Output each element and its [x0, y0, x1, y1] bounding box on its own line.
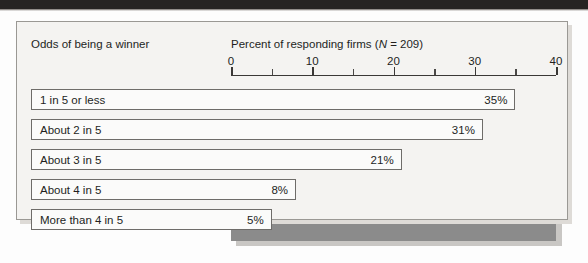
scanned-page: Odds of being a winner Percent of respon… [0, 0, 588, 263]
bar-value-label: 5% [247, 214, 264, 226]
chart-figure: Odds of being a winner Percent of respon… [0, 11, 588, 263]
bar-value-label: 35% [484, 94, 507, 106]
x-tick-minor [515, 69, 517, 75]
x-tick-major [231, 67, 233, 75]
bar-value-label: 21% [371, 154, 394, 166]
bar-series: 1 in 5 or less35%About 2 in 531%About 3 … [0, 11, 588, 263]
x-tick-major [556, 67, 558, 75]
x-tick-minor [272, 69, 274, 75]
x-tick-major [394, 67, 396, 75]
bar-row: 1 in 5 or less35% [31, 89, 515, 110]
bar-value-label: 31% [452, 124, 475, 136]
x-tick-minor [434, 69, 436, 75]
bar-category-label: About 4 in 5 [40, 184, 101, 196]
bar-row: About 3 in 521% [31, 149, 402, 170]
bar-value-label: 8% [271, 184, 288, 196]
bar-row: About 4 in 58% [31, 179, 296, 200]
bar-category-label: 1 in 5 or less [40, 94, 105, 106]
bar-category-label: About 3 in 5 [40, 154, 101, 166]
bar-category-label: More than 4 in 5 [40, 214, 123, 226]
x-tick-minor [353, 69, 355, 75]
bar-row: About 2 in 531% [31, 119, 483, 140]
x-tick-major [312, 67, 314, 75]
x-tick-major [475, 67, 477, 75]
page-edge-band [0, 0, 588, 9]
bar-row: More than 4 in 55% [31, 209, 272, 230]
bar-category-label: About 2 in 5 [40, 124, 101, 136]
